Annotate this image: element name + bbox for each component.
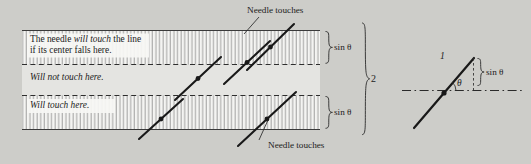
buffon-needle-figure: Needle touches Needle touches The needle… [0,0,531,164]
angle-diagram [402,58,525,128]
brace-outer-two [362,23,370,135]
projection-label: sin θ [486,67,503,78]
middle-strip-text: Will not touch here. [30,72,104,83]
needle-center-dot [196,76,201,81]
upper-band-text-emphasis: will touch [74,34,111,44]
upper-band-text-line2: if its center falls here. [30,45,111,56]
upper-band-text-line1: The needle will touch the line [30,34,141,45]
brace-upper-label: sin θ [334,42,351,53]
callout-top-label: Needle touches [247,5,303,16]
needle-center-dot [245,60,250,65]
needle-center-dot [268,45,273,50]
callout-bottom-label: Needle touches [268,140,324,151]
needle-center-dot [265,117,270,122]
lower-band-text: Will touch here. [30,100,89,111]
needle-center-dot [159,117,164,122]
upper-band-text-lead: The needle [30,34,74,44]
brace-lower [326,97,333,129]
needle-length-label: 1 [440,50,445,61]
brace-lower-label: sin θ [334,107,351,118]
upper-band-text-tail: the line [111,34,141,44]
needle-center-dot [441,90,446,95]
angle-theta-label: θ [457,78,462,89]
brace-sin-theta [478,59,485,86]
brace-upper [326,32,333,64]
brace-outer-label: 2 [371,73,376,85]
